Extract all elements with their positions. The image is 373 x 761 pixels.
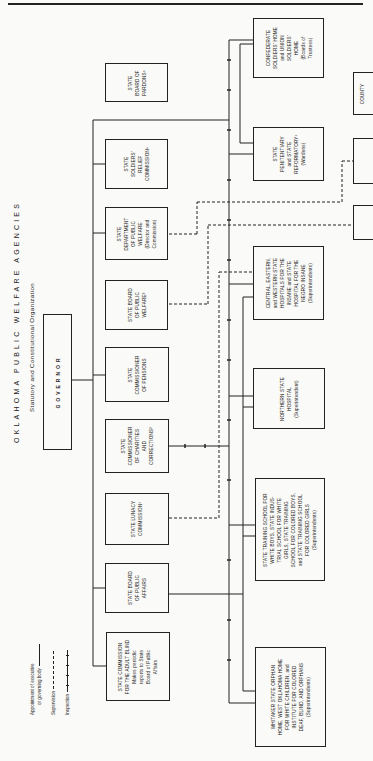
legend-solid-line	[39, 644, 40, 666]
agency-commissioner-pensions: STATECOMMISSIONEROF PENSIONS	[105, 347, 169, 402]
agency-charities-corrections: STATECOMMISSIONEROF CHARITIESANDCORRECTI…	[105, 419, 169, 473]
institution-state-hospitals: CENTRAL, EASTERN,and WESTERN STATEHOSPIT…	[253, 246, 324, 320]
governor-box: GOVERNOR	[43, 314, 72, 450]
governor-label: GOVERNOR	[54, 355, 61, 408]
agency-board-public-welfare: STATE BOARDOF PUBLICWELFARE³	[105, 280, 168, 330]
inspection-ticks	[185, 60, 231, 660]
agency-dept-public-welfare: STATEDEPARTMENTOF PUBLICWELFARE(Director…	[105, 207, 168, 260]
institution-northern-hospital: NORTHERN STATEHOSPITAL(Superintendent)	[253, 368, 325, 429]
institution-training-schools: STATE TRAINING SCHOOL FORWHITE BOYS, STA…	[255, 478, 325, 581]
legend-appointment: Appointment of executive or governing bo…	[29, 644, 43, 715]
agency-state-board-of-pardons: STATEBOARD OFPARDONS⁵	[105, 63, 168, 102]
institution-penitentiary: STATEPENITENTIARYand STATEREFORMATORY⁴(W…	[253, 127, 324, 181]
agency-adult-blind-commission: STATE COMMISSIONFOR THE ADULT BLINDMakes…	[106, 632, 170, 701]
legend-inspection: Inspection	[64, 650, 71, 715]
institution-orphan-homes: WHITAKER STATE ORPHANHOME, WEST OKLAHOMA…	[255, 647, 326, 747]
county-box-2	[353, 138, 373, 184]
legend-dashed-line	[53, 651, 54, 689]
institution-confederate-home: CONFEDERATESOLDIERS' HOMEand UNIONSOLDIE…	[253, 18, 324, 78]
agency-board-public-affairs: STATE BOARDOF PUBLICAFFAIRS	[105, 563, 169, 613]
legend-ticked-line	[67, 650, 68, 692]
county-box-3	[353, 205, 373, 240]
agency-lunacy-commission: STATE LUNACYCOMMISSION¹	[105, 493, 169, 545]
agency-soldiers-relief-commission: STATESOLDIERS'RELIEFCOMMISSION⁶	[105, 139, 168, 189]
legend-supervision: Supervision	[50, 651, 57, 715]
county-box-1: COUNTY	[353, 72, 373, 115]
